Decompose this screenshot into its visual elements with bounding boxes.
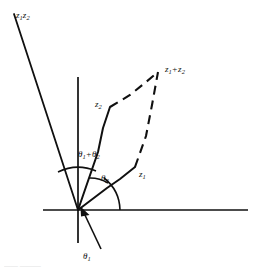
- label-theta1-plus-theta2: θ1+θ2: [78, 150, 100, 160]
- label-z1: z1: [139, 170, 146, 180]
- label-z1-plus-z2-text: z1+z2: [165, 64, 185, 74]
- label-theta1-plus-theta2-text: θ1+θ2: [78, 149, 100, 159]
- clipped-caption-remnant: —— ———: [4, 262, 94, 268]
- label-theta2: θ2: [101, 174, 109, 184]
- dashed-edge-z2-to-sum: [110, 72, 158, 107]
- label-z2-text: z2: [95, 99, 102, 109]
- label-z1z2-product: z1z2: [16, 11, 30, 21]
- vector-z1z2: [14, 14, 78, 210]
- label-z1-text: z1: [139, 169, 146, 179]
- figure-canvas: z1z2 z1+z2 z2 θ1+θ2 θ2 z1 θ1 —— ———: [0, 0, 264, 270]
- figure-drawing: [0, 0, 264, 270]
- theta1-pointer-arrowhead: [81, 207, 90, 217]
- label-theta1-text: θ1: [83, 251, 91, 261]
- dashed-edge-z1-to-sum: [135, 72, 158, 167]
- label-z1-plus-z2: z1+z2: [165, 65, 185, 75]
- label-z1z2-text: z1z2: [16, 10, 30, 20]
- label-z2: z2: [95, 100, 102, 110]
- label-theta1: θ1: [83, 252, 91, 262]
- theta1-pointer-line: [84, 213, 101, 249]
- label-theta2-text: θ2: [101, 173, 109, 183]
